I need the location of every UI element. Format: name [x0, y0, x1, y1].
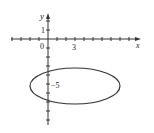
ellipse-curve	[30, 68, 120, 104]
y-tick-label-1: 1	[41, 26, 45, 35]
y-axis-label: y	[39, 11, 44, 21]
x-axis-label: x	[135, 41, 140, 50]
x-tick-label-3: 3	[72, 43, 76, 52]
y-tick-label-neg5: −5	[51, 81, 60, 90]
origin-label: 0	[40, 42, 44, 51]
ellipse-diagram: y x 1 0 3 −5	[0, 0, 154, 133]
y-axis-arrow-icon	[46, 13, 50, 19]
